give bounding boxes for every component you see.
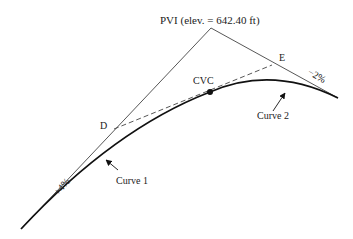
diagram-canvas: PVI (elev. = 642.40 ft) CVC D E +4% −2% … xyxy=(0,0,353,239)
grade-left-label: +4% xyxy=(51,176,72,197)
vertical-curve-diagram: PVI (elev. = 642.40 ft) CVC D E +4% −2% … xyxy=(0,0,353,239)
curve-1 xyxy=(21,92,210,229)
curve-2-leader-arrow xyxy=(273,93,285,111)
cvc-point xyxy=(207,89,213,95)
curve-1-label: Curve 1 xyxy=(116,175,148,186)
pvi-label: PVI (elev. = 642.40 ft) xyxy=(160,14,260,27)
curve-2-label: Curve 2 xyxy=(257,110,289,121)
tangent-right-line xyxy=(211,28,338,98)
curve-1-leader-arrow xyxy=(106,160,118,170)
cvc-label: CVC xyxy=(193,75,214,86)
point-e-label: E xyxy=(279,52,285,63)
point-d-label: D xyxy=(100,120,107,131)
